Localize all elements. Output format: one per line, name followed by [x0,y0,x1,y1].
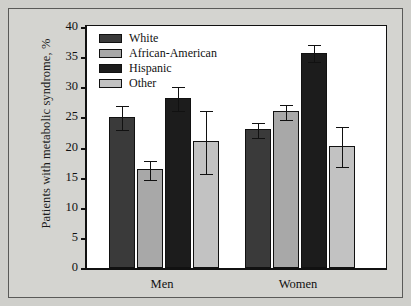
y-tick-mark [81,178,87,180]
y-tick-label: 15 [66,170,79,185]
error-bar-line [122,106,123,130]
error-bar-cap-lower [172,111,185,112]
legend-label: White [129,31,158,46]
figure-container: Patients with metabolic syndrome, % 0510… [0,0,411,306]
legend-label: Other [129,76,156,91]
y-tick-label: 10 [66,200,79,215]
error-bar-cap-lower [280,120,293,121]
error-bar-cap-lower [116,130,129,131]
legend-item-white: White [99,31,217,45]
figure-frame: Patients with metabolic syndrome, % 0510… [8,8,403,298]
error-bar-line [150,161,151,180]
error-bar-line [314,45,315,62]
y-tick-mark [81,208,87,210]
y-tick-mark [81,238,87,240]
bar-women-african-american [273,111,299,268]
legend-item-other: Other [99,76,217,90]
chart-legend: WhiteAfrican-AmericanHispanicOther [99,31,217,91]
error-bar-line [258,123,259,137]
legend-swatch-icon [99,34,122,43]
legend-item-african-american: African-American [99,46,217,60]
error-bar-line [342,127,343,167]
x-axis-label-women: Women [258,277,338,292]
bar-men-white [109,117,135,268]
legend-swatch-icon [99,79,122,88]
error-bar-cap-lower [144,180,157,181]
error-bar-cap-upper [252,123,265,124]
y-tick-label: 0 [72,260,78,275]
y-tick-label: 20 [66,140,79,155]
legend-swatch-icon [99,49,122,58]
y-tick-label: 5 [72,230,78,245]
legend-item-hispanic: Hispanic [99,61,217,75]
y-tick-mark [81,57,87,59]
y-tick-mark [81,268,87,270]
legend-label: Hispanic [129,61,172,76]
error-bar-cap-lower [308,62,321,63]
y-tick-mark [81,148,87,150]
y-tick-label: 40 [66,19,79,34]
legend-label: African-American [129,46,217,61]
y-tick-mark [81,117,87,119]
y-tick-label: 35 [66,49,79,64]
error-bar-cap-upper [116,106,129,107]
x-axis-label-men: Men [122,277,202,292]
error-bar-line [206,111,207,174]
error-bar-cap-upper [200,111,213,112]
y-tick-mark [81,87,87,89]
bar-men-hispanic [165,98,191,268]
y-axis-label: Patients with metabolic syndrome, % [39,34,54,234]
error-bar-cap-upper [308,45,321,46]
bar-women-hispanic [301,53,327,268]
legend-swatch-icon [99,64,122,73]
error-bar-cap-lower [336,167,349,168]
y-tick-label: 30 [66,79,79,94]
bar-men-african-american [137,169,163,268]
bar-women-white [245,129,271,268]
error-bar-line [286,105,287,121]
error-bar-cap-lower [252,138,265,139]
error-bar-cap-upper [280,105,293,106]
error-bar-cap-lower [200,174,213,175]
y-tick-mark [81,27,87,29]
y-tick-label: 25 [66,109,79,124]
error-bar-cap-upper [336,127,349,128]
error-bar-cap-upper [144,161,157,162]
